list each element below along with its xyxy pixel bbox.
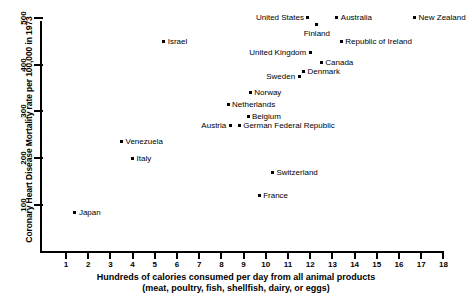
data-point-label: Republic of Ireland: [345, 37, 412, 46]
data-point-label: Italy: [137, 154, 152, 163]
x-tick: [87, 253, 89, 259]
data-point-label: Norway: [254, 88, 281, 97]
data-point-label: France: [263, 191, 288, 200]
data-point: [229, 124, 232, 127]
y-tick: [34, 17, 43, 19]
x-tick-label: 12: [300, 260, 320, 269]
x-tick-label: 15: [367, 260, 387, 269]
x-tick-label: 1: [56, 260, 76, 269]
y-tick: [34, 64, 43, 66]
data-point: [298, 75, 301, 78]
data-point: [309, 51, 312, 54]
data-point: [306, 16, 309, 19]
x-tick: [420, 253, 422, 259]
x-tick: [287, 253, 289, 259]
data-point-label: New Zealand: [419, 13, 466, 22]
x-tick-label: 3: [100, 260, 120, 269]
x-tick: [354, 253, 356, 259]
x-tick: [398, 253, 400, 259]
x-tick-label: 10: [256, 260, 276, 269]
x-tick: [65, 253, 67, 259]
x-axis-title-line2: (meat, poultry, fish, shellfish, dairy, …: [0, 283, 472, 294]
data-point: [302, 70, 305, 73]
data-point: [247, 115, 250, 118]
x-tick-label: 6: [167, 260, 187, 269]
x-tick-label: 7: [189, 260, 209, 269]
x-tick: [109, 253, 111, 259]
data-point-label: Venezuela: [126, 137, 163, 146]
data-point: [413, 16, 416, 19]
data-point: [227, 103, 230, 106]
data-point: [120, 140, 123, 143]
data-point-label: Netherlands: [232, 100, 275, 109]
data-point-label: Austria: [201, 121, 226, 130]
data-point-label: German Federal Republic: [243, 121, 335, 130]
y-tick: [34, 110, 43, 112]
data-point-label: Belgium: [252, 112, 281, 121]
x-tick-label: 14: [345, 260, 365, 269]
data-point-label: Sweden: [266, 72, 295, 81]
data-point-label: United States: [256, 13, 304, 22]
data-point: [131, 157, 134, 160]
x-tick-label: 17: [411, 260, 431, 269]
data-point-label: United Kingdom: [249, 48, 306, 57]
x-tick-label: 13: [322, 260, 342, 269]
x-tick: [176, 253, 178, 259]
y-axis-title: Coronary Heart Disease Mortality rate pe…: [25, 15, 34, 245]
data-point: [335, 16, 338, 19]
x-tick: [376, 253, 378, 259]
x-tick: [198, 253, 200, 259]
data-point: [271, 171, 274, 174]
y-tick: [34, 157, 43, 159]
data-point: [320, 61, 323, 64]
data-point-label: Australia: [341, 13, 372, 22]
x-tick-label: 18: [433, 260, 453, 269]
x-tick-label: 5: [145, 260, 165, 269]
y-tick: [34, 204, 43, 206]
x-tick: [220, 253, 222, 259]
data-point-label: Canada: [325, 58, 353, 67]
data-point: [73, 211, 76, 214]
x-tick: [331, 253, 333, 259]
data-point: [340, 40, 343, 43]
x-tick-label: 16: [389, 260, 409, 269]
x-tick-label: 9: [234, 260, 254, 269]
data-point-label: Israel: [168, 37, 188, 46]
x-tick: [442, 253, 444, 259]
data-point-label: Finland: [304, 29, 330, 38]
scatter-chart: 100200300400500 123456789101112131415161…: [0, 0, 472, 305]
x-axis-title: Hundreds of calories consumed per day fr…: [0, 272, 472, 294]
x-tick: [243, 253, 245, 259]
x-tick-label: 11: [278, 260, 298, 269]
data-point: [238, 124, 241, 127]
data-point: [315, 23, 318, 26]
data-point: [162, 40, 165, 43]
x-tick: [265, 253, 267, 259]
x-tick-label: 4: [123, 260, 143, 269]
data-point: [249, 91, 252, 94]
data-point-label: Japan: [79, 208, 101, 217]
x-tick-label: 8: [211, 260, 231, 269]
x-tick: [132, 253, 134, 259]
x-axis-title-line1: Hundreds of calories consumed per day fr…: [0, 272, 472, 283]
x-tick: [154, 253, 156, 259]
data-point: [258, 194, 261, 197]
data-point-label: Denmark: [308, 67, 340, 76]
y-axis-line: [40, 21, 42, 253]
x-tick: [309, 253, 311, 259]
data-point-label: Switzerland: [276, 168, 317, 177]
x-tick-label: 2: [78, 260, 98, 269]
